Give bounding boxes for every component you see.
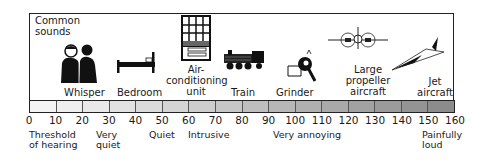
descriptor-line: of hearing xyxy=(29,140,77,150)
label-line: conditioning xyxy=(166,75,226,86)
source-label-large-propeller-aircraft: Large propeller aircraft xyxy=(343,64,393,97)
scale-segment xyxy=(402,101,429,112)
source-label-grinder: Grinder xyxy=(276,87,314,98)
tick-label: 20 xyxy=(76,114,89,126)
scale-segment xyxy=(375,101,402,112)
descriptor-line: Quiet xyxy=(149,130,175,140)
tick-label: 60 xyxy=(182,114,195,126)
scale-segment xyxy=(163,101,190,112)
descriptor-line: loud xyxy=(422,140,462,150)
descriptor-very-annoying: Very annoying xyxy=(273,130,341,140)
source-label-air-conditioning-unit: Air- conditioning unit xyxy=(166,64,226,97)
scale-segment xyxy=(269,101,296,112)
label-line: Jet xyxy=(417,76,453,87)
label-line: Large xyxy=(343,64,393,75)
tick-label: 120 xyxy=(338,114,358,126)
source-label-jet-aircraft: Jet aircraft xyxy=(417,76,453,98)
scale-segment xyxy=(30,101,57,112)
label-line: Air- xyxy=(166,64,226,75)
scale-segment xyxy=(428,101,454,112)
train-locomotive-icon xyxy=(222,50,268,70)
label-line: Train xyxy=(231,87,255,98)
tick-label: 150 xyxy=(418,114,438,126)
scale-segment xyxy=(216,101,243,112)
decibel-scale-bar xyxy=(29,100,455,113)
descriptor-painfully-loud: Painfully loud xyxy=(422,130,462,150)
diagram-title: Common sounds xyxy=(35,15,80,37)
label-line: aircraft xyxy=(417,87,453,98)
scale-segment xyxy=(83,101,110,112)
jet-aircraft-icon xyxy=(392,35,448,71)
label-line: aircraft xyxy=(343,86,393,97)
descriptor-intrusive: Intrusive xyxy=(188,130,230,140)
tick-label: 160 xyxy=(445,114,465,126)
tick-label: 70 xyxy=(209,114,222,126)
source-label-bedroom: Bedroom xyxy=(117,87,162,98)
tick-label: 10 xyxy=(49,114,62,126)
tick-label: 100 xyxy=(285,114,305,126)
scale-segment xyxy=(243,101,270,112)
title-line-2: sounds xyxy=(35,26,80,37)
descriptor-line: Very annoying xyxy=(273,130,341,140)
tick-label: 140 xyxy=(392,114,412,126)
tick-label: 110 xyxy=(312,114,332,126)
grinder-icon xyxy=(287,50,317,82)
descriptor-threshold-of-hearing: Threshold of hearing xyxy=(29,130,77,150)
scale-segment xyxy=(57,101,84,112)
label-line: Grinder xyxy=(276,87,314,98)
whisper-people-icon xyxy=(58,43,102,83)
scale-segment xyxy=(296,101,323,112)
descriptor-very-quiet: Very quiet xyxy=(96,130,120,150)
tick-label: 130 xyxy=(365,114,385,126)
scale-segment xyxy=(110,101,137,112)
source-label-whisper: Whisper xyxy=(64,87,105,98)
source-label-train: Train xyxy=(231,87,255,98)
propeller-aircraft-icon xyxy=(328,27,388,51)
label-line: propeller xyxy=(343,75,393,86)
tick-label: 40 xyxy=(129,114,142,126)
scale-segment xyxy=(349,101,376,112)
descriptor-line: quiet xyxy=(96,140,120,150)
label-line: Bedroom xyxy=(117,87,162,98)
scale-segment xyxy=(189,101,216,112)
tick-label: 90 xyxy=(262,114,275,126)
label-line: unit xyxy=(166,86,226,97)
tick-label: 80 xyxy=(235,114,248,126)
air-conditioner-icon xyxy=(181,15,211,61)
descriptor-line: Intrusive xyxy=(188,130,230,140)
tick-label: 50 xyxy=(155,114,168,126)
label-line: Whisper xyxy=(64,87,105,98)
tick-label: 0 xyxy=(26,114,33,126)
tick-label: 30 xyxy=(102,114,115,126)
scale-segment xyxy=(136,101,163,112)
title-line-1: Common xyxy=(35,15,80,26)
descriptor-quiet: Quiet xyxy=(149,130,175,140)
scale-segment xyxy=(322,101,349,112)
bed-icon xyxy=(116,50,156,74)
